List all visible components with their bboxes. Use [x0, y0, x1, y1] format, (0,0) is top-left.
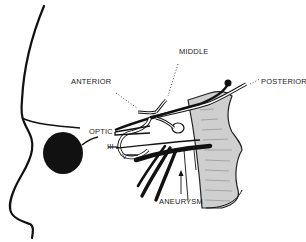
anterior-leader	[116, 93, 137, 108]
label-nerve-iii: III	[107, 143, 114, 151]
label-anterior: ANTERIOR	[71, 78, 111, 86]
posterior-vessel-end	[225, 80, 232, 87]
face-profile-outline	[10, 6, 44, 238]
label-nerve-v: V	[122, 153, 127, 161]
label-aneurysm: ANEURYSM	[159, 198, 203, 206]
posterior-leader	[250, 79, 260, 84]
middle-leader	[168, 64, 178, 96]
eye-globe	[43, 132, 83, 174]
optic-nerve-stub	[82, 137, 98, 145]
label-optic: OPTIC	[89, 128, 113, 136]
brow-line	[22, 118, 80, 128]
anatomy-diagram	[0, 0, 306, 242]
label-posterior: POSTERIOR	[261, 78, 306, 86]
label-middle: MIDDLE	[179, 48, 209, 56]
